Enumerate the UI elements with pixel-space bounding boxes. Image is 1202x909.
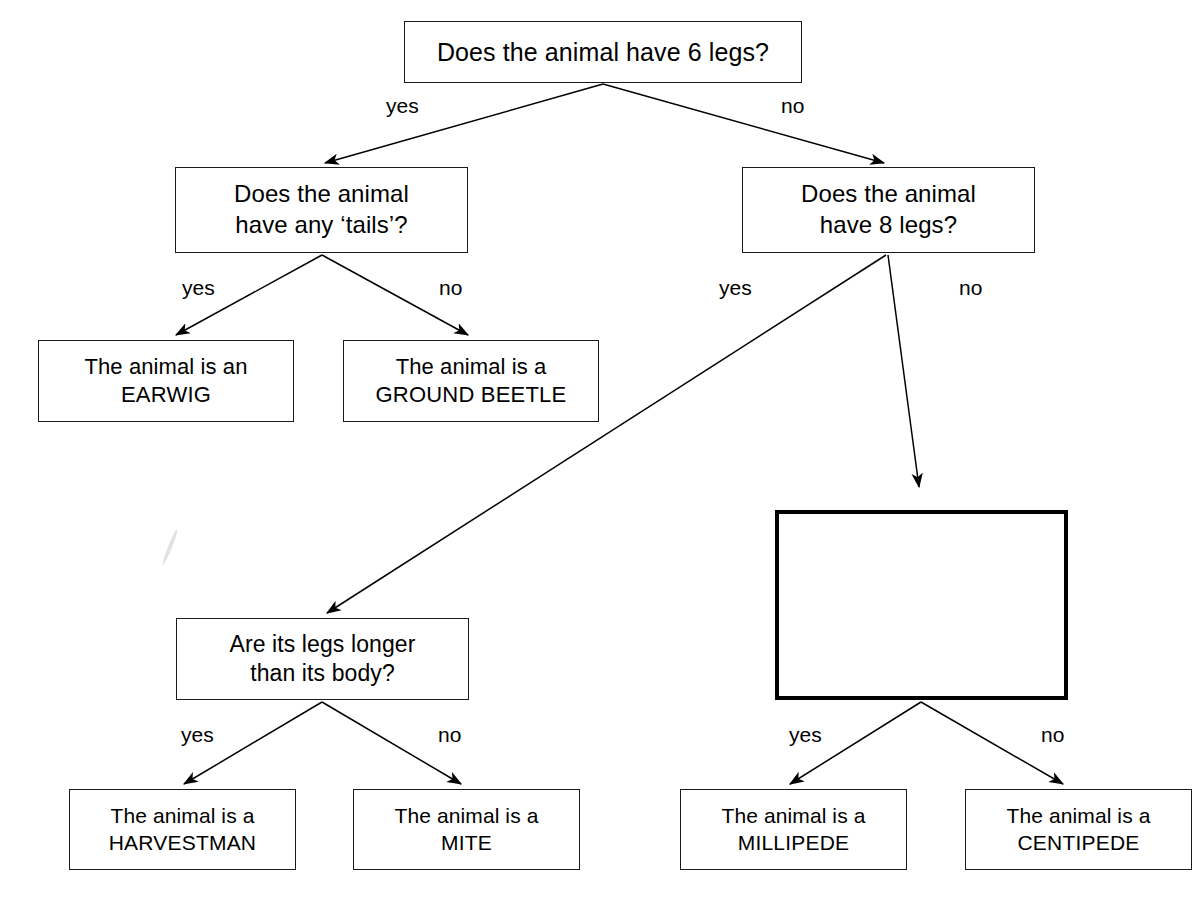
edge-e-eight-no xyxy=(888,255,919,487)
node-text-line: CENTIPEDE xyxy=(1018,830,1140,857)
node-text-line: have any ‘tails’? xyxy=(235,210,407,241)
node-a-millipede[interactable]: The animal is aMILLIPEDE xyxy=(680,789,907,870)
edge-label-e-eight-yes: yes xyxy=(719,277,752,298)
edge-label-e-blank-no: no xyxy=(1041,724,1064,745)
node-q-tails[interactable]: Does the animalhave any ‘tails’? xyxy=(175,167,468,253)
edge-label-e-six-no: no xyxy=(781,95,804,116)
node-a-earwig[interactable]: The animal is anEARWIG xyxy=(38,340,294,422)
node-text-line: The animal is a xyxy=(396,353,547,381)
edge-label-e-tails-yes: yes xyxy=(182,277,215,298)
edge-label-e-eight-no: no xyxy=(959,277,982,298)
node-text-line: Does the animal xyxy=(801,179,976,210)
node-text-line: have 8 legs? xyxy=(820,210,957,241)
node-text-line: MITE xyxy=(441,830,492,857)
node-q-six-legs[interactable]: Does the animal have 6 legs? xyxy=(404,21,802,83)
node-q-legs-longer[interactable]: Are its legs longerthan its body? xyxy=(176,618,469,700)
node-text-line: The animal is a xyxy=(395,803,539,830)
node-a-mite[interactable]: The animal is aMITE xyxy=(353,789,580,870)
node-text-line: than its body? xyxy=(250,659,395,688)
node-text-line: MILLIPEDE xyxy=(738,830,850,857)
node-text-line: Does the animal xyxy=(234,179,409,210)
node-text-line: GROUND BEETLE xyxy=(376,381,567,409)
edge-label-e-six-yes: yes xyxy=(386,95,419,116)
node-a-centipede[interactable]: The animal is aCENTIPEDE xyxy=(965,789,1192,870)
edge-label-e-blank-yes: yes xyxy=(789,724,822,745)
edge-label-e-tails-no: no xyxy=(439,277,462,298)
edge-e-six-yes xyxy=(325,84,603,163)
node-q-eight-legs[interactable]: Does the animalhave 8 legs? xyxy=(742,167,1035,253)
node-text-line: The animal is a xyxy=(1007,803,1151,830)
node-text-line: Are its legs longer xyxy=(230,630,416,659)
edge-layer xyxy=(0,0,1202,909)
node-text-line: Does the animal have 6 legs? xyxy=(437,36,769,68)
node-text-line: The animal is an xyxy=(84,353,247,381)
node-text-line: The animal is a xyxy=(722,803,866,830)
edge-label-e-legs-yes: yes xyxy=(181,724,214,745)
scan-artifact xyxy=(161,529,179,566)
edge-label-e-legs-no: no xyxy=(438,724,461,745)
edge-e-six-no xyxy=(603,84,884,163)
node-q-blank[interactable] xyxy=(775,510,1068,700)
diagram-canvas: Does the animal have 6 legs?Does the ani… xyxy=(0,0,1202,909)
node-text-line: EARWIG xyxy=(121,381,211,409)
node-text-line: HARVESTMAN xyxy=(109,830,256,857)
node-text-line: The animal is a xyxy=(111,803,255,830)
node-a-ground-beetle[interactable]: The animal is aGROUND BEETLE xyxy=(343,340,599,422)
node-a-harvestman[interactable]: The animal is aHARVESTMAN xyxy=(69,789,296,870)
